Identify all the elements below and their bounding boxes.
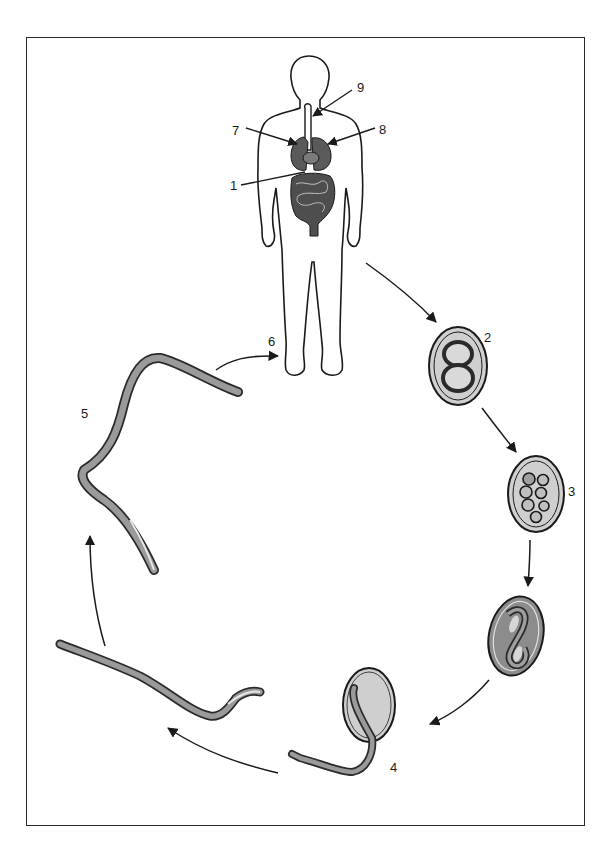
heart <box>303 152 319 164</box>
arrow-hatching-to-free-larva <box>168 728 278 773</box>
label-5: 5 <box>81 406 88 421</box>
arrow-free-larva-to-infective <box>90 536 105 646</box>
life-cycle-diagram: 9 7 8 1 2 3 4 5 6 <box>0 0 613 847</box>
arrow-egg3-to-larva-egg <box>528 540 530 586</box>
egg-two-cell <box>429 327 487 405</box>
label-8: 8 <box>379 122 386 137</box>
hatching-larva <box>292 668 395 772</box>
human-host-figure <box>258 56 363 375</box>
label-9: 9 <box>357 80 364 95</box>
label-4: 4 <box>390 760 397 775</box>
arrow-larva-egg-to-hatching <box>430 680 489 724</box>
label-2: 2 <box>484 330 491 345</box>
arrow-egg2-to-egg3 <box>482 408 516 452</box>
label-1: 1 <box>230 178 237 193</box>
label-7: 7 <box>232 123 239 138</box>
arrow-infective-to-host <box>216 356 278 370</box>
free-living-larva <box>60 644 260 716</box>
infective-larva <box>83 358 238 570</box>
egg-morula <box>508 456 564 532</box>
label-6: 6 <box>268 334 275 349</box>
label-3: 3 <box>568 484 575 499</box>
arrow-host-to-egg2 <box>366 263 436 322</box>
egg-with-larva <box>481 591 550 680</box>
